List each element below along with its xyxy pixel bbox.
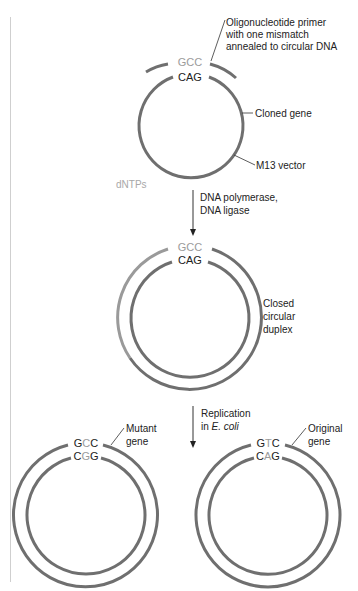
primer-pointer [211,20,225,61]
mutant-duplex: GCC CGG Mutant gene [13,423,157,587]
base-c: C [194,241,202,253]
arrow1-head-icon [190,229,196,236]
base-g: G [193,254,202,266]
base-c: C [90,437,98,449]
base-c: C [178,71,186,83]
base-c: C [82,437,90,449]
base-g: G [178,241,187,253]
primer-strand-right [210,64,236,78]
base-g: G [271,450,280,462]
duplex-label-line2: circular [263,311,296,322]
base-g: G [178,56,187,68]
vector-pointer [234,155,255,165]
mutant-outer-sequence: GCC [74,437,99,449]
base-g: G [90,450,99,462]
duplex-label-line1: Closed [263,298,294,309]
mutant-inner-sequence: CGG [73,450,98,462]
base-g: G [74,437,83,449]
arrow1-label-line2: DNA ligase [200,205,250,216]
arrow2-label-line1: Replication [201,408,250,419]
original-outer-strand [196,445,340,587]
primer-label-line3: annealed to circular DNA [226,41,337,52]
mutant-outer-strand [13,445,157,587]
base-g: G [256,437,265,449]
base-c: C [178,254,186,266]
mutant-inner-strand [27,458,145,574]
duplex-inner-strand [131,262,249,377]
vector-label: M13 vector [256,160,306,171]
base-c: C [73,450,81,462]
base-c: C [194,56,202,68]
template-sequence: CAG [178,71,202,83]
mutant-label-line1: Mutant [126,423,157,434]
arrow2-label-prefix: in [201,421,212,432]
mutant-label-line2: gene [126,436,149,447]
dntps-label: dNTPs [116,179,147,190]
mutagenesis-diagram: GCC CAG Oligonucleotide primer with one … [0,0,358,591]
primer-strand-left [146,64,168,72]
primer-label-line2: with one mismatch [225,29,309,40]
base-c: C [186,56,194,68]
original-inner-sequence: CAG [256,450,280,462]
duplex-inner-sequence: CAG [178,254,202,266]
step2-closed-duplex: GCC CAG Closed circular duplex [118,241,296,389]
original-pointer [292,428,306,445]
cloned-gene-label: Cloned gene [255,108,312,119]
original-duplex: GTC CAG Original gene [196,423,342,587]
base-c: C [272,437,280,449]
original-label-line2: gene [308,436,331,447]
step1-circular-template: GCC CAG Oligonucleotide primer with one … [116,17,337,190]
base-c: C [256,450,264,462]
base-g: G [193,71,202,83]
duplex-outer-sequence: GCC [178,241,203,253]
base-g: G [81,450,90,462]
arrow2-label-organism: E. coli [212,421,240,432]
primer-label-line1: Oligonucleotide primer [226,17,327,28]
arrow2-label-line2: in E. coli [201,421,240,432]
duplex-outer-strand [130,249,261,389]
arrow1-label-line1: DNA polymerase, [200,192,278,203]
duplex-outer-strand-left [118,249,168,358]
duplex-label-line3: duplex [263,324,292,335]
arrow2-head-icon [190,441,196,448]
mutant-pointer [111,428,124,445]
original-inner-strand [209,458,327,574]
arrow-replication: Replication in E. coli [190,406,250,448]
original-label-line1: Original [308,423,342,434]
template-strand [139,77,243,178]
primer-sequence: GCC [178,56,203,68]
arrow-polymerase-ligase: DNA polymerase, DNA ligase [190,190,278,236]
original-outer-sequence: GTC [256,437,279,449]
base-c: C [186,241,194,253]
